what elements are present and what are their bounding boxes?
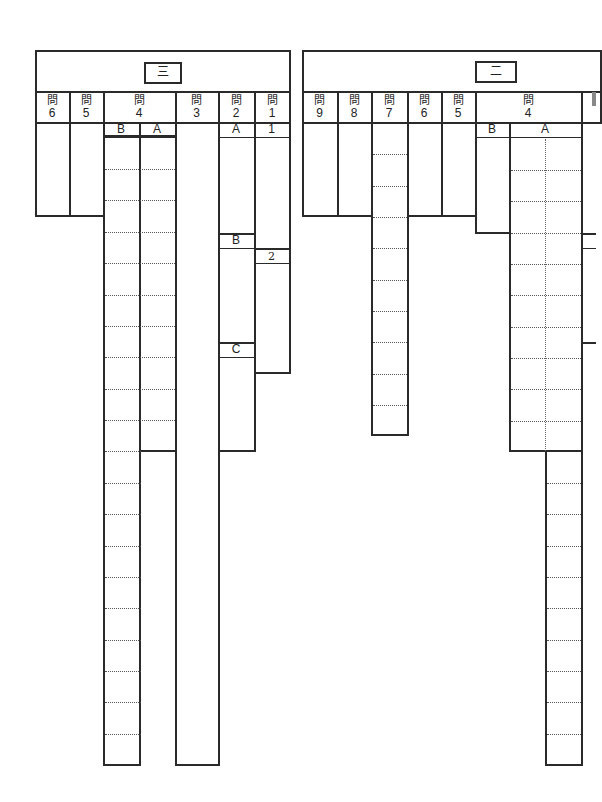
question-label-3: 問3	[175, 95, 218, 119]
answer-column-q4-a[interactable]	[139, 136, 177, 452]
row-divider	[547, 702, 581, 703]
section-title: 二	[475, 61, 517, 83]
divider	[254, 137, 289, 138]
row-divider	[511, 170, 581, 171]
row-divider	[511, 421, 581, 422]
row-divider	[105, 671, 141, 672]
answer-column-q7[interactable]	[371, 122, 409, 436]
divider	[302, 91, 602, 93]
row-divider	[511, 295, 581, 296]
sub-label-q2-c: C	[218, 343, 254, 356]
row-divider	[547, 640, 581, 641]
row-divider	[105, 640, 141, 641]
question-label-5: 問5	[441, 95, 475, 119]
answer-box-q6[interactable]	[407, 122, 443, 217]
row-divider	[105, 295, 175, 296]
row-divider	[105, 326, 175, 327]
question-label-7: 問7	[371, 95, 407, 119]
row-divider	[105, 420, 175, 421]
divider	[583, 122, 596, 124]
answer-box-q2-b[interactable]	[218, 233, 256, 344]
answer-box-q1-1[interactable]	[254, 122, 291, 250]
row-divider	[105, 263, 175, 264]
answer-column-q4-a[interactable]	[509, 122, 583, 452]
answer-box-q2-c[interactable]	[218, 342, 256, 452]
sub-label-q4-a: A	[139, 123, 175, 136]
row-divider	[105, 451, 141, 452]
answer-box-q1-2[interactable]	[254, 248, 291, 374]
row-divider	[105, 702, 141, 703]
row-divider	[373, 154, 407, 155]
answer-column-q3[interactable]	[175, 122, 220, 766]
row-divider	[547, 671, 581, 672]
row-divider	[105, 389, 175, 390]
row-divider	[373, 217, 407, 218]
row-divider	[105, 357, 175, 358]
sub-label-q2-b: B	[218, 234, 254, 247]
sub-label-q2-a: A	[218, 123, 254, 136]
row-divider	[373, 248, 407, 249]
row-divider	[105, 483, 141, 484]
divider	[583, 233, 596, 235]
answer-box-q8[interactable]	[337, 122, 373, 217]
row-divider	[373, 342, 407, 343]
divider	[475, 137, 581, 138]
question-label-6: 問6	[407, 95, 441, 119]
row-divider	[547, 514, 581, 515]
section-title: 三	[144, 62, 182, 84]
row-divider	[373, 186, 407, 187]
answer-box-q5[interactable]	[441, 122, 477, 217]
row-divider	[373, 405, 407, 406]
question-label-1: 問1	[254, 95, 290, 119]
row-divider	[105, 608, 141, 609]
row-divider	[511, 389, 581, 390]
row-divider	[511, 358, 581, 359]
answer-box-q2-a[interactable]	[218, 122, 256, 235]
divider	[35, 91, 291, 93]
row-divider	[373, 374, 407, 375]
answer-column-q4-b[interactable]	[475, 122, 511, 234]
divider	[218, 248, 254, 249]
question-label-9: 問9	[302, 95, 337, 119]
row-divider	[105, 546, 141, 547]
row-divider	[105, 169, 175, 170]
row-divider	[511, 327, 581, 328]
question-label-2: 問2	[218, 95, 254, 119]
question-label-4: 問4	[475, 95, 581, 119]
sub-label-q4-b: B	[103, 123, 139, 136]
row-divider	[373, 311, 407, 312]
row-divider	[105, 734, 141, 735]
row-divider	[105, 200, 175, 201]
answer-box-q9[interactable]	[302, 122, 339, 217]
divider	[218, 137, 254, 138]
question-label-5: 問5	[69, 95, 103, 119]
row-divider	[547, 608, 581, 609]
question-label-6: 問6	[35, 95, 69, 119]
divider	[583, 342, 596, 344]
row-divider	[511, 233, 581, 234]
divider	[218, 357, 254, 358]
next-column-stub	[592, 92, 596, 106]
sub-label-q1-2: 2	[254, 250, 289, 263]
answer-box-q6[interactable]	[35, 122, 71, 217]
answer-box-q5[interactable]	[69, 122, 105, 217]
row-divider	[105, 232, 175, 233]
sub-label-q1-1: 1	[254, 123, 289, 136]
question-label-4: 問4	[103, 95, 175, 119]
row-divider	[547, 546, 581, 547]
divider	[583, 248, 596, 249]
question-label-8: 問8	[337, 95, 371, 119]
row-divider	[373, 280, 407, 281]
row-divider	[511, 264, 581, 265]
row-divider	[511, 201, 581, 202]
divider	[254, 263, 289, 264]
row-divider	[547, 734, 581, 735]
row-divider	[547, 577, 581, 578]
row-divider	[105, 514, 141, 515]
row-divider	[547, 483, 581, 484]
row-divider	[105, 577, 141, 578]
